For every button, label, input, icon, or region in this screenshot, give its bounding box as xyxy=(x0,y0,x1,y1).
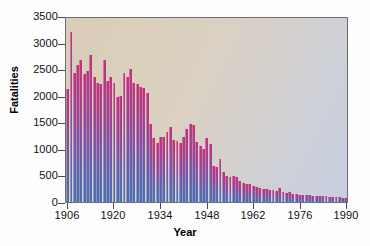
y-axis-tick-label: 1000 xyxy=(26,143,58,155)
y-axis-tick xyxy=(58,17,65,18)
y-axis-tick xyxy=(58,44,65,45)
x-axis-tick-label: 1990 xyxy=(326,209,366,221)
y-axis-tick xyxy=(58,123,65,124)
y-axis-tick xyxy=(58,70,65,71)
x-axis-title: Year xyxy=(0,226,370,238)
x-axis-tick-label: 1962 xyxy=(233,209,273,221)
plot-area xyxy=(65,17,348,203)
x-axis-tick-label: 1920 xyxy=(93,209,133,221)
bar-series xyxy=(66,18,347,202)
y-axis-tick-label: 2500 xyxy=(26,63,58,75)
y-axis-tick xyxy=(58,150,65,151)
x-axis-tick-label: 1948 xyxy=(187,209,227,221)
y-axis-tick-label: 0 xyxy=(26,196,58,208)
x-axis-tick-label: 1934 xyxy=(140,209,180,221)
x-axis-tick-label: 1906 xyxy=(47,209,87,221)
x-axis-tick-label: 1976 xyxy=(280,209,320,221)
y-axis-tick-label: 1500 xyxy=(26,116,58,128)
y-axis-tick xyxy=(58,176,65,177)
bar xyxy=(344,198,347,202)
fatalities-bar-chart: 3500300025002000150010005000 Fatalities … xyxy=(0,0,370,246)
y-axis-tick xyxy=(58,97,65,98)
y-axis-tick xyxy=(58,203,65,204)
y-axis-tick-label: 2000 xyxy=(26,90,58,102)
y-axis-tick-label: 3500 xyxy=(26,10,58,22)
y-axis-tick-label: 3000 xyxy=(26,37,58,49)
y-axis-title: Fatalities xyxy=(8,50,20,130)
y-axis-tick-label: 500 xyxy=(26,169,58,181)
